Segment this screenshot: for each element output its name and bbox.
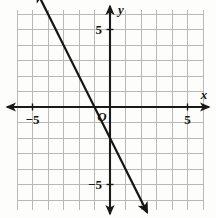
- coordinate-plane-svg: x y O −55 5−5: [0, 0, 216, 218]
- y-tick-label: 5: [96, 22, 103, 37]
- x-tick-label: 5: [184, 112, 191, 127]
- y-tick-label: −5: [88, 177, 102, 192]
- x-axis-label: x: [200, 87, 208, 102]
- x-tick-label: −5: [26, 112, 40, 127]
- coordinate-plane-figure: x y O −55 5−5: [0, 0, 216, 218]
- y-axis-label: y: [116, 2, 124, 17]
- origin-label: O: [97, 109, 107, 124]
